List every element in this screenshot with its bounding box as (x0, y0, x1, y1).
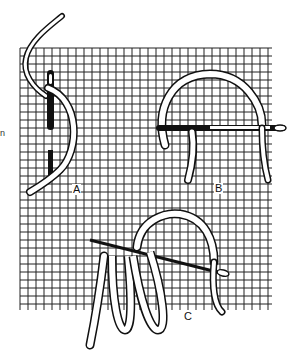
step-b-illustration (156, 74, 286, 180)
label-c: C (183, 311, 193, 322)
stitch-diagram (0, 0, 297, 355)
cropped-text-fragment: n (0, 128, 5, 138)
fabric-grid (20, 48, 272, 310)
step-c-illustration (90, 214, 230, 345)
label-a: A (72, 184, 81, 195)
label-b: B (214, 183, 223, 194)
